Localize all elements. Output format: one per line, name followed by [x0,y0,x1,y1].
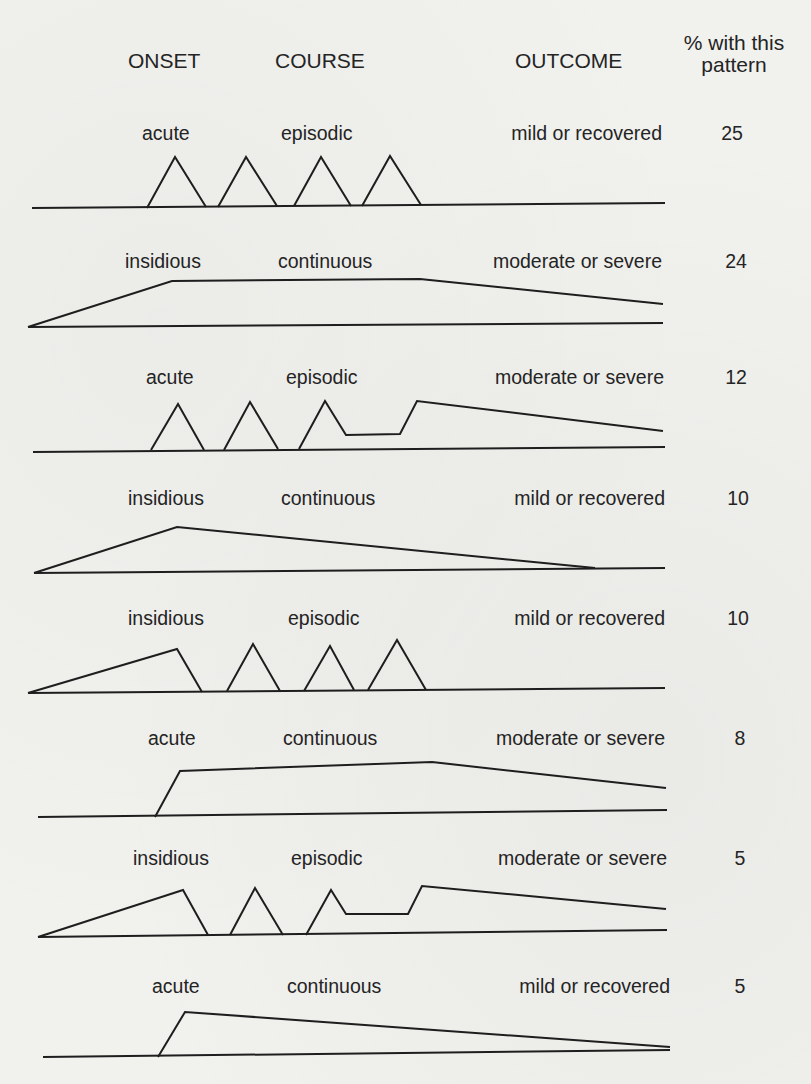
symptom-course-curve [294,157,351,206]
outcome-label: mild or recovered [511,122,662,144]
symptom-course-curve [304,646,354,691]
pattern-row: insidiouscontinuousmoderate or severe24 [28,250,747,327]
header-percent-line1: % with this [684,31,784,54]
pattern-row: insidiousepisodicmild or recovered10 [28,607,749,693]
symptom-course-curve [362,156,421,206]
onset-label: acute [148,727,196,749]
time-axis-line [33,447,665,452]
header-onset: ONSET [128,49,201,72]
symptom-course-curve [230,888,283,935]
time-axis-line [28,323,663,327]
header-course: COURSE [275,49,365,72]
onset-label: acute [146,366,194,388]
symptom-course-curve [147,157,206,208]
course-label: episodic [291,847,363,869]
percent-value: 25 [721,122,743,144]
symptom-course-curve [28,279,663,327]
percent-value: 10 [727,487,749,509]
course-label: episodic [286,366,358,388]
symptom-course-curve [368,640,426,690]
outcome-label: mild or recovered [514,607,665,629]
symptom-course-curve [151,404,204,450]
outcome-label: moderate or severe [496,727,665,749]
time-axis-line [38,810,667,817]
percent-value: 5 [735,847,746,869]
percent-value: 10 [727,607,749,629]
percent-value: 24 [725,250,747,272]
outcome-label: moderate or severe [498,847,667,869]
symptom-course-curve [227,644,280,691]
outcome-label: moderate or severe [493,250,662,272]
course-label: continuous [278,250,373,272]
time-axis-line [38,930,667,937]
course-label: episodic [288,607,360,629]
onset-label: insidious [133,847,209,869]
pattern-row: acuteepisodicmoderate or severe12 [33,366,747,452]
pattern-row: insidiousepisodicmoderate or severe5 [38,847,746,937]
time-axis-line [28,688,665,693]
course-label: episodic [281,122,353,144]
percent-value: 8 [735,727,746,749]
time-axis-line [34,568,665,573]
pattern-rows: acuteepisodicmild or recovered25insidiou… [28,122,749,1057]
onset-label: insidious [128,607,204,629]
symptom-course-curve [38,890,208,937]
course-label: continuous [283,727,378,749]
symptom-course-curve [224,402,278,450]
outcome-label: mild or recovered [519,975,670,997]
outcome-label: moderate or severe [495,366,664,388]
symptom-course-curve [299,401,663,449]
pattern-row: acutecontinuousmild or recovered5 [43,975,746,1057]
onset-label: acute [142,122,190,144]
course-label: continuous [281,487,376,509]
percent-value: 5 [735,975,746,997]
onset-label: insidious [125,250,201,272]
pattern-row: insidiouscontinuousmild or recovered10 [34,487,749,573]
course-label: continuous [287,975,382,997]
symptom-course-curve [28,649,202,693]
pattern-row: acuteepisodicmild or recovered25 [32,122,743,208]
header-percent-line2: pattern [701,53,766,76]
header-outcome: OUTCOME [515,49,622,72]
symptom-course-curve [306,886,666,935]
symptom-course-curve [218,157,277,207]
pattern-row: acutecontinuousmoderate or severe8 [38,727,745,817]
time-axis-line [43,1050,670,1057]
column-headers: ONSET COURSE OUTCOME % with this pattern [128,31,784,76]
onset-label: insidious [128,487,204,509]
symptom-course-curve [34,527,595,573]
symptom-course-curve [155,762,666,817]
outcome-label: mild or recovered [514,487,665,509]
figure-page: ONSET COURSE OUTCOME % with this pattern… [0,0,811,1084]
illness-course-patterns-diagram: ONSET COURSE OUTCOME % with this pattern… [0,0,811,1084]
percent-value: 12 [725,366,747,388]
onset-label: acute [152,975,200,997]
